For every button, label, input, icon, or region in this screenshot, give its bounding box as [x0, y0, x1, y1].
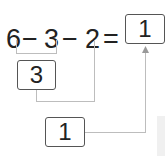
margin-strip	[157, 116, 165, 156]
arrow-up-icon	[0, 0, 165, 156]
